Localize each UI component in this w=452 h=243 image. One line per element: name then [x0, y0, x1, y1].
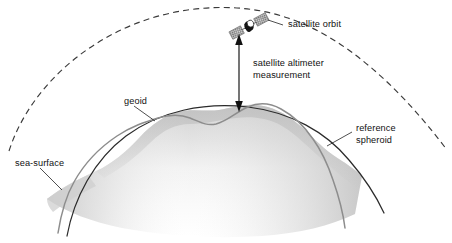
label-satellite-orbit: satellite orbit: [288, 19, 341, 29]
label-sea-surface: sea-surface: [15, 158, 64, 168]
label-reference-spheroid-line1: reference: [356, 123, 396, 133]
satellite: [228, 12, 269, 41]
satellite-orbit-leader-line: [268, 20, 283, 25]
reference-spheroid-leader-line: [327, 132, 352, 146]
sea-surface-shape: [47, 105, 362, 237]
label-reference-spheroid-line2: spheroid: [356, 135, 392, 145]
altimeter-measurement-arrow: [235, 34, 243, 112]
altimetry-diagram: satellite orbit satellite altimeter meas…: [0, 0, 452, 243]
label-geoid: geoid: [124, 96, 147, 106]
label-altimeter-line1: satellite altimeter: [253, 58, 324, 68]
label-altimeter-line2: measurement: [253, 70, 311, 80]
sea-surface-leader-line: [40, 168, 62, 190]
sea-surface-shadow-sides: [47, 105, 362, 237]
geoid-leader-line: [134, 106, 155, 121]
diagram-canvas: satellite orbit satellite altimeter meas…: [0, 0, 452, 243]
satellite-body: [242, 19, 256, 33]
